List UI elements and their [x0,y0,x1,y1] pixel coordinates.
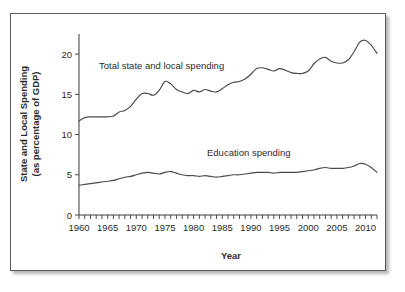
figure-root: 05101520 1960196519701975198019851990199… [0,0,405,292]
x-tick-label-group: 1960196519701975198019851990199520002005… [68,222,376,233]
x-minor-tick-group [79,215,377,219]
series-line-total-spending [79,40,377,121]
x-tick-label-2000: 2000 [298,222,319,233]
chart-plot: 05101520 1960196519701975198019851990199… [11,14,385,270]
x-tick-label-1990: 1990 [240,222,261,233]
series-line-education-spending [79,163,377,185]
y-tick-label-5: 5 [67,169,72,180]
y-tick-group: 05101520 [61,49,79,221]
x-tick-label-1965: 1965 [97,222,118,233]
series-annotation-education: Education spending [207,147,290,158]
y-axis-title-line2: (as percentage of GDP) [30,71,41,176]
y-axis-title-line1: State and Local Spending [18,66,29,182]
chart-frame: 05101520 1960196519701975198019851990199… [10,13,386,271]
x-axis: 1960196519701975198019851990199520002005… [68,215,377,233]
x-tick-label-2005: 2005 [326,222,347,233]
y-tick-label-0: 0 [67,210,72,221]
x-axis-title: Year [221,250,241,261]
series-annotation-total: Total state and local spending [99,60,224,71]
x-tick-label-1975: 1975 [154,222,175,233]
x-tick-label-2010: 2010 [355,222,376,233]
y-tick-label-10: 10 [61,129,72,140]
y-axis: 05101520 [61,34,79,221]
x-tick-label-1995: 1995 [269,222,290,233]
x-tick-label-1970: 1970 [126,222,147,233]
y-tick-label-15: 15 [61,89,72,100]
x-tick-label-1960: 1960 [68,222,89,233]
y-tick-label-20: 20 [61,49,72,60]
x-tick-label-1980: 1980 [183,222,204,233]
x-tick-label-1985: 1985 [212,222,233,233]
